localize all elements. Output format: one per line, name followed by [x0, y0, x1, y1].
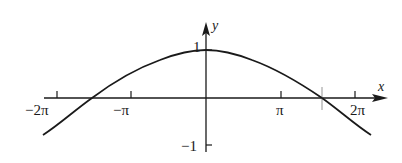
cosine-plot: y x 1 −1 −2π −π π 2π [0, 0, 402, 163]
y-tick-label-1: 1 [193, 39, 201, 55]
x-axis-label: x [377, 79, 385, 94]
x-tick-label-neg-2pi: −2π [25, 102, 49, 118]
x-tick-label-pi: π [276, 102, 284, 118]
x-tick-label-2pi: 2π [350, 102, 366, 118]
x-tick-label-neg-pi: −π [113, 102, 129, 118]
y-axis-label: y [210, 18, 219, 33]
y-tick-label-neg-1: −1 [181, 138, 197, 154]
